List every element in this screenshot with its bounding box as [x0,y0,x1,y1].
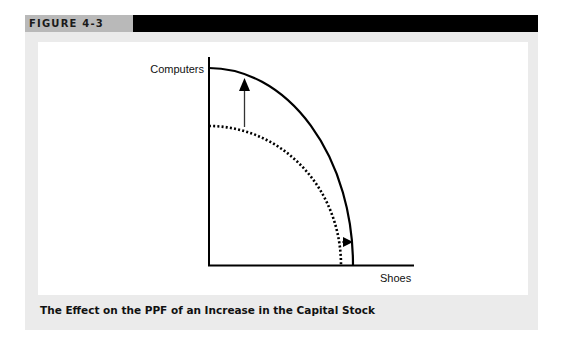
new-ppf-curve [209,68,353,265]
figure-caption: The Effect on the PPF of an Increase in … [40,304,375,316]
up-arrow-icon [239,78,250,91]
y-axis-label: Computers [150,63,204,75]
x-axis-label: Shoes [380,272,412,284]
original-ppf-curve [209,126,341,265]
ppf-chart: Computers Shoes [0,0,564,350]
